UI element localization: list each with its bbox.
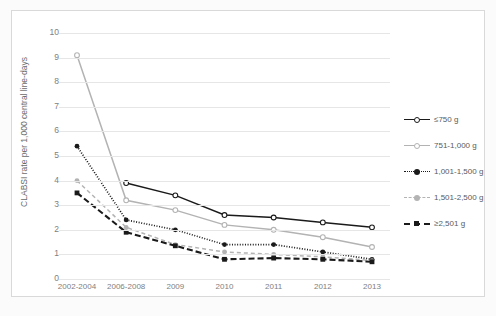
gridline xyxy=(59,107,390,108)
gridline xyxy=(59,131,390,132)
legend-label: 1,501-2,500 g xyxy=(434,194,483,202)
legend-item-3[interactable]: 1,001-1,500 g xyxy=(404,166,483,178)
y-tick-label: 10 xyxy=(37,28,59,37)
y-tick-label: 7 xyxy=(37,102,59,111)
chart-frame: CLABSI rate per 1,000 central line-days … xyxy=(11,10,485,297)
data-point xyxy=(222,242,227,247)
y-tick-label: 3 xyxy=(37,200,59,209)
data-point xyxy=(75,144,80,149)
gridline xyxy=(59,33,390,34)
gridline xyxy=(59,82,390,83)
data-point xyxy=(124,198,129,203)
x-tick-label: 2011 xyxy=(265,283,282,291)
data-point xyxy=(222,222,227,227)
y-axis: CLABSI rate per 1,000 central line-days … xyxy=(12,11,59,301)
x-axis-labels: 2002-20042006-200820092010201120122013 xyxy=(59,283,390,299)
data-point xyxy=(271,256,276,261)
y-tick-label: 8 xyxy=(37,77,59,86)
data-point xyxy=(124,218,129,223)
y-axis-title: CLABSI rate per 1,000 central line-days xyxy=(19,32,29,232)
legend-marker xyxy=(414,195,420,201)
data-point xyxy=(320,235,325,240)
gridline xyxy=(59,279,390,280)
gridline xyxy=(59,254,390,255)
gridline xyxy=(59,205,390,206)
data-point xyxy=(173,243,178,248)
y-tick-label: 2 xyxy=(37,225,59,234)
data-point xyxy=(222,257,227,262)
legend-item-2[interactable]: 751-1,000 g xyxy=(404,140,477,152)
y-tick-label: 4 xyxy=(37,176,59,185)
series-3 xyxy=(75,144,375,262)
legend-marker xyxy=(414,143,420,149)
data-point xyxy=(320,220,325,225)
data-point xyxy=(173,208,178,213)
legend-item-1[interactable]: ≤750 g xyxy=(404,114,458,126)
data-point xyxy=(271,215,276,220)
x-tick-label: 2013 xyxy=(363,283,381,291)
x-tick-label: 2002-2004 xyxy=(58,283,96,291)
x-tick-label: 2009 xyxy=(166,283,184,291)
series-4 xyxy=(75,178,375,263)
series-line xyxy=(77,181,372,261)
legend-marker xyxy=(414,169,420,175)
gridline xyxy=(59,58,390,59)
y-tick-label: 1 xyxy=(37,249,59,258)
x-tick-label: 2010 xyxy=(216,283,234,291)
y-tick-label: 6 xyxy=(37,126,59,135)
gridline xyxy=(59,181,390,182)
series-line xyxy=(77,55,372,247)
legend-marker xyxy=(414,221,419,226)
x-tick-label: 2012 xyxy=(314,283,332,291)
legend-marker xyxy=(414,117,420,123)
data-point xyxy=(370,259,375,264)
legend-label: 1,001-1,500 g xyxy=(434,168,483,176)
legend-swatch-icon xyxy=(404,141,430,151)
x-tick-label: 2006-2008 xyxy=(107,283,145,291)
data-point xyxy=(222,213,227,218)
legend-label: 751-1,000 g xyxy=(434,142,477,150)
legend-label: ≥2,501 g xyxy=(434,220,465,228)
legend-label: ≤750 g xyxy=(434,116,458,124)
legend-item-4[interactable]: 1,501-2,500 g xyxy=(404,192,483,204)
y-tick-label: 0 xyxy=(37,274,59,283)
legend-item-5[interactable]: ≥2,501 g xyxy=(404,218,465,230)
plot-area xyxy=(59,33,390,279)
gridline xyxy=(59,230,390,231)
legend-swatch-icon xyxy=(404,115,430,125)
legend-swatch-icon xyxy=(404,167,430,177)
gridline xyxy=(59,156,390,157)
data-point xyxy=(271,242,276,247)
chart-legend: ≤750 g751-1,000 g1,001-1,500 g1,501-2,50… xyxy=(404,114,496,242)
legend-swatch-icon xyxy=(404,219,430,229)
y-tick-label: 9 xyxy=(37,53,59,62)
data-point xyxy=(370,245,375,250)
chart-page: CLABSI rate per 1,000 central line-days … xyxy=(0,0,496,316)
data-point xyxy=(320,257,325,262)
data-point xyxy=(173,193,178,198)
legend-swatch-icon xyxy=(404,193,430,203)
y-tick-label: 5 xyxy=(37,151,59,160)
data-point xyxy=(75,191,80,196)
